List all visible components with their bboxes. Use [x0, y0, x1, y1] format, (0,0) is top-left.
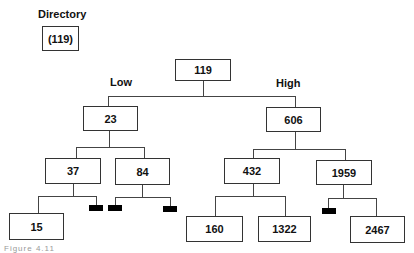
connector: [76, 147, 145, 148]
connector: [376, 198, 377, 216]
node-15: 15: [9, 213, 64, 240]
empty-bucket-marker: [322, 208, 336, 214]
connector: [170, 197, 171, 206]
node-23: 23: [83, 106, 138, 131]
connector: [115, 197, 116, 205]
connector: [215, 196, 216, 216]
figure-caption: Figure 4.11: [4, 244, 55, 253]
empty-bucket-marker: [163, 206, 177, 212]
root-node: 119: [175, 59, 231, 81]
connector: [76, 147, 77, 158]
directory-title: Directory: [38, 8, 86, 20]
empty-bucket-marker: [108, 205, 122, 211]
node-606: 606: [266, 107, 321, 132]
connector: [343, 185, 344, 198]
branch-label-high: High: [276, 77, 300, 89]
connector: [253, 149, 346, 150]
empty-bucket-marker: [89, 205, 103, 211]
connector: [328, 198, 377, 199]
directory-box: (119): [42, 26, 79, 51]
connector: [253, 149, 254, 158]
connector: [38, 196, 97, 197]
node-160: 160: [186, 216, 243, 242]
node-37: 37: [45, 158, 101, 184]
connector: [328, 198, 329, 208]
connector: [115, 197, 171, 198]
node-432: 432: [224, 158, 280, 184]
connector: [295, 96, 296, 107]
connector: [253, 184, 254, 196]
connector: [144, 147, 145, 158]
branch-label-low: Low: [110, 76, 132, 88]
node-1959: 1959: [316, 160, 372, 185]
connector: [109, 131, 110, 147]
node-1322: 1322: [258, 216, 311, 242]
connector: [345, 149, 346, 160]
connector: [295, 132, 296, 149]
connector: [96, 196, 97, 205]
connector: [108, 96, 296, 97]
node-2467: 2467: [350, 216, 405, 243]
connector: [285, 196, 286, 216]
connector: [142, 185, 143, 197]
connector: [108, 96, 109, 106]
connector: [215, 196, 286, 197]
connector: [38, 196, 39, 213]
connector: [73, 184, 74, 196]
node-84: 84: [115, 158, 170, 185]
connector: [203, 81, 204, 96]
